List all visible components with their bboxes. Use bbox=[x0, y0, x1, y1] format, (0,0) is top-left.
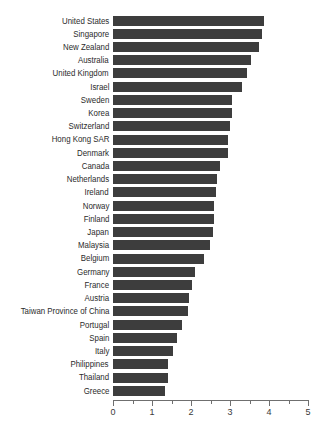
category-label: Korea bbox=[88, 108, 109, 118]
x-tick-label: 1 bbox=[149, 407, 154, 417]
x-tick-label: 0 bbox=[110, 407, 115, 417]
category-label: Ireland bbox=[85, 187, 109, 197]
bar-chart: United StatesSingaporeNew ZealandAustral… bbox=[0, 0, 319, 441]
category-label: Japan bbox=[88, 227, 109, 237]
category-label: France bbox=[84, 280, 109, 290]
bar bbox=[113, 333, 177, 343]
x-tick-major bbox=[308, 400, 309, 406]
category-label: Finland bbox=[83, 214, 109, 224]
bar-row: Portugal bbox=[0, 319, 319, 332]
bar-row: Spain bbox=[0, 332, 319, 345]
bar-row: Hong Kong SAR bbox=[0, 134, 319, 147]
category-label: Belgium bbox=[81, 253, 109, 263]
bar bbox=[113, 306, 188, 316]
bar-row: Australia bbox=[0, 55, 319, 68]
bar bbox=[113, 161, 220, 171]
bar bbox=[113, 280, 192, 290]
x-tick-major bbox=[191, 400, 192, 406]
bar-row: Austria bbox=[0, 293, 319, 306]
bar-row: Israel bbox=[0, 81, 319, 94]
category-label: Hong Kong SAR bbox=[51, 134, 109, 144]
category-label: Australia bbox=[78, 55, 109, 65]
x-tick-minor bbox=[250, 400, 251, 404]
bar-row: Greece bbox=[0, 385, 319, 398]
category-label: Spain bbox=[89, 333, 109, 343]
bar bbox=[113, 201, 214, 211]
x-tick-minor bbox=[172, 400, 173, 404]
bar bbox=[113, 135, 228, 145]
bar-row: Sweden bbox=[0, 94, 319, 107]
bar bbox=[113, 227, 213, 237]
bar-row: Malaysia bbox=[0, 240, 319, 253]
bar bbox=[113, 29, 262, 39]
bar bbox=[113, 55, 251, 65]
bar bbox=[113, 240, 210, 250]
bar bbox=[113, 148, 228, 158]
bar bbox=[113, 359, 168, 369]
category-label: New Zealand bbox=[63, 42, 109, 52]
bar-row: France bbox=[0, 279, 319, 292]
bar-row: Canada bbox=[0, 160, 319, 173]
bar-row: Finland bbox=[0, 213, 319, 226]
x-tick-minor bbox=[211, 400, 212, 404]
category-label: Germany bbox=[77, 267, 109, 277]
bar bbox=[113, 42, 259, 52]
x-tick-minor bbox=[289, 400, 290, 404]
bar-row: United States bbox=[0, 15, 319, 28]
x-tick-label: 2 bbox=[188, 407, 193, 417]
bar bbox=[113, 16, 264, 26]
bar-row: Philippines bbox=[0, 359, 319, 372]
x-tick-major bbox=[269, 400, 270, 406]
category-label: Thailand bbox=[79, 372, 109, 382]
category-label: Norway bbox=[82, 201, 109, 211]
bar-row: Korea bbox=[0, 108, 319, 121]
bar bbox=[113, 373, 168, 383]
category-label: Canada bbox=[81, 161, 109, 171]
category-label: Portugal bbox=[80, 320, 109, 330]
bar bbox=[113, 121, 230, 131]
category-label: Taiwan Province of China bbox=[20, 306, 109, 316]
bar-row: Italy bbox=[0, 346, 319, 359]
bar bbox=[113, 82, 242, 92]
bar-row: Denmark bbox=[0, 147, 319, 160]
bar bbox=[113, 320, 182, 330]
bar-row: Japan bbox=[0, 227, 319, 240]
bar-row: Netherlands bbox=[0, 174, 319, 187]
bar bbox=[113, 68, 247, 78]
category-label: United States bbox=[62, 16, 109, 26]
category-label: Philippines bbox=[71, 359, 109, 369]
bar bbox=[113, 267, 195, 277]
bar-row: Thailand bbox=[0, 372, 319, 385]
category-label: Israel bbox=[90, 82, 109, 92]
bar-row: United Kingdom bbox=[0, 68, 319, 81]
bar-row: Switzerland bbox=[0, 121, 319, 134]
bar bbox=[113, 346, 173, 356]
x-tick-major bbox=[113, 400, 114, 406]
category-label: Switzerland bbox=[68, 121, 109, 131]
bar bbox=[113, 174, 217, 184]
category-label: Netherlands bbox=[67, 174, 109, 184]
category-label: Sweden bbox=[81, 95, 109, 105]
bar-row: Belgium bbox=[0, 253, 319, 266]
bar-row: Singapore bbox=[0, 28, 319, 41]
bar bbox=[113, 95, 232, 105]
bar-row: Germany bbox=[0, 266, 319, 279]
bar-row: Norway bbox=[0, 200, 319, 213]
category-label: Greece bbox=[83, 386, 109, 396]
x-tick-major bbox=[152, 400, 153, 406]
bar-row: Ireland bbox=[0, 187, 319, 200]
bar bbox=[113, 214, 214, 224]
category-label: United Kingdom bbox=[53, 68, 109, 78]
x-tick-major bbox=[230, 400, 231, 406]
bar bbox=[113, 254, 204, 264]
x-tick-label: 5 bbox=[305, 407, 310, 417]
bar bbox=[113, 386, 165, 396]
category-label: Austria bbox=[84, 293, 109, 303]
bar bbox=[113, 187, 216, 197]
x-tick-label: 4 bbox=[266, 407, 271, 417]
category-label: Italy bbox=[95, 346, 109, 356]
x-tick-label: 3 bbox=[227, 407, 232, 417]
bar-row: Taiwan Province of China bbox=[0, 306, 319, 319]
category-label: Denmark bbox=[77, 148, 109, 158]
category-label: Malaysia bbox=[78, 240, 109, 250]
